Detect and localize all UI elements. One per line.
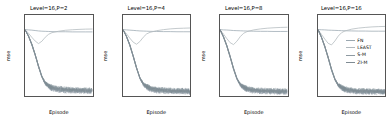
y-axis-label-text: mse	[200, 50, 206, 61]
y-axis-label-text: mse	[298, 50, 304, 61]
series-line-s-m	[123, 30, 190, 95]
y-axis-label: mse	[199, 14, 207, 97]
legend-color-swatch	[346, 62, 355, 63]
series-line-s-m	[123, 30, 190, 95]
curve-layer	[220, 15, 288, 96]
chart-panel-4: Level=16,P=16mse102101025005000750010000…	[293, 0, 390, 123]
series-line-s-m	[25, 30, 92, 94]
panel-title: Level=16,P=8	[195, 5, 293, 12]
series-line-zi-m	[123, 30, 190, 94]
legend-label: FN	[357, 38, 363, 43]
series-line-zi-m	[25, 30, 93, 91]
chart-panel-2: Level=16,P=4mse102101025005000750010000E…	[98, 0, 196, 123]
x-tick-mark	[173, 96, 174, 97]
x-tick-mark	[122, 96, 123, 97]
legend-label: S-M	[357, 52, 366, 57]
y-tick-mark	[122, 66, 123, 67]
x-tick-mark	[58, 96, 59, 97]
series-line-zi-m	[220, 30, 287, 94]
series-line-zi-m	[220, 30, 287, 94]
curve-layer	[25, 15, 93, 96]
y-tick-mark	[219, 66, 220, 67]
series-line-s-m	[25, 30, 92, 94]
x-tick-mark	[42, 96, 43, 97]
legend-label: ZI-M	[357, 60, 367, 65]
series-line-zi-m	[220, 30, 287, 94]
y-tick-mark	[219, 32, 220, 33]
series-line-fn	[318, 30, 386, 32]
x-axis-label: Episode	[317, 109, 387, 115]
x-axis-label: Episode	[24, 109, 94, 115]
series-line-s-m	[220, 30, 287, 95]
x-axis-label: Episode	[122, 109, 192, 115]
y-tick-mark	[24, 32, 25, 33]
x-tick-mark	[190, 96, 191, 97]
series-line-zi-m	[123, 30, 191, 91]
curve-layer	[123, 15, 191, 96]
y-axis-label: mse	[102, 14, 110, 97]
plot-area: 102101025005000750010000	[122, 14, 192, 97]
y-tick-mark	[24, 66, 25, 67]
series-line-zi-m	[220, 30, 288, 91]
x-tick-mark	[317, 96, 318, 97]
series-line-s-m	[123, 30, 190, 95]
series-line-s-m	[220, 30, 287, 95]
x-tick-mark	[368, 96, 369, 97]
x-tick-mark	[156, 96, 157, 97]
series-line-zi-m	[220, 30, 287, 94]
series-line-zi-m	[25, 30, 92, 93]
x-tick-mark	[139, 96, 140, 97]
panel-title: Level=16,P=16	[293, 5, 390, 12]
legend-color-swatch	[346, 47, 355, 48]
plot-area: 102101025005000750010000	[24, 14, 94, 97]
chart-legend: FNLEASTS-MZI-M	[346, 38, 372, 65]
legend-color-swatch	[346, 40, 355, 41]
plot-area: 102101025005000750010000	[219, 14, 289, 97]
plot-area: 102101025005000750010000FNLEASTS-MZI-M	[317, 14, 387, 97]
series-line-least	[220, 27, 288, 44]
y-axis-label: mse	[4, 14, 12, 97]
x-tick-mark	[25, 96, 26, 97]
series-line-least	[25, 29, 93, 44]
chart-panel-1: Level=16,P=2mse102101025005000750010000E…	[0, 0, 98, 123]
x-axis-label: Episode	[219, 109, 289, 115]
series-line-s-m	[123, 30, 190, 95]
panel-title: Level=16,P=2	[0, 5, 98, 12]
series-line-s-m	[25, 30, 92, 94]
y-axis-label-text: mse	[5, 50, 11, 61]
y-tick-mark	[122, 32, 123, 33]
legend-item: LEAST	[346, 45, 372, 50]
series-line-s-m	[123, 30, 190, 95]
series-line-s-m	[220, 30, 287, 95]
x-tick-mark	[92, 96, 93, 97]
series-line-zi-m	[25, 30, 92, 93]
series-line-zi-m	[25, 30, 92, 93]
series-line-zi-m	[123, 30, 190, 93]
legend-color-swatch	[346, 55, 355, 56]
legend-item: FN	[346, 38, 372, 43]
y-axis-label: mse	[297, 14, 305, 97]
legend-item: S-M	[346, 52, 372, 57]
x-tick-mark	[237, 96, 238, 97]
x-tick-mark	[75, 96, 76, 97]
series-line-s-m	[220, 30, 288, 92]
x-tick-mark	[287, 96, 288, 97]
series-line-s-m	[25, 30, 93, 92]
x-tick-mark	[220, 96, 221, 97]
series-line-zi-m	[123, 30, 190, 94]
x-tick-mark	[351, 96, 352, 97]
legend-label: LEAST	[357, 45, 371, 50]
chart-panel-3: Level=16,P=8mse102101025005000750010000E…	[195, 0, 293, 123]
x-tick-mark	[253, 96, 254, 97]
series-line-zi-m	[25, 30, 92, 93]
series-line-s-m	[25, 30, 92, 94]
series-line-zi-m	[123, 30, 190, 94]
y-tick-mark	[317, 66, 318, 67]
y-tick-mark	[317, 32, 318, 33]
figure-multi-panel-mse-plot: Level=16,P=2mse102101025005000750010000E…	[0, 0, 390, 123]
series-line-zi-m	[123, 30, 190, 94]
series-line-s-m	[220, 30, 287, 95]
panel-title: Level=16,P=4	[98, 5, 196, 12]
series-line-s-m	[25, 30, 92, 94]
legend-item: ZI-M	[346, 60, 372, 65]
